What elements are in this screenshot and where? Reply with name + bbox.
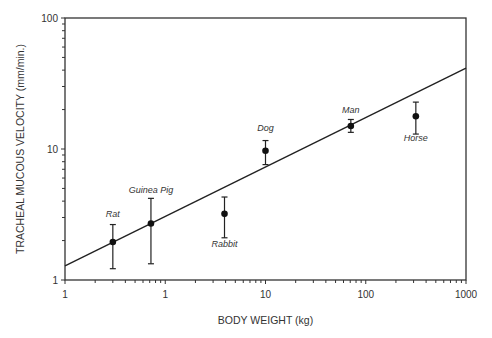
x-tick-label: 1 [62,289,68,300]
x-tick-label: 1000 [455,289,478,300]
point-label: Man [342,105,360,115]
point-label: Guinea Pig [129,185,174,195]
x-tick-label: 1 [162,289,168,300]
data-point [348,123,355,130]
point-label: Dog [257,123,274,133]
data-point [148,220,155,227]
x-tick-label: 10 [260,289,272,300]
x-tick-label: 100 [357,289,374,300]
data-point [110,239,117,246]
y-axis-title: TRACHEAL MUCOUS VELOCITY (mm/min.) [14,44,26,254]
point-label: Rabbit [211,239,238,249]
y-tick-label: 100 [41,13,58,24]
data-point [221,211,228,218]
y-tick-label: 1 [52,275,58,286]
data-point [262,147,269,154]
scatter-chart: 11101001000110100BODY WEIGHT (kg)TRACHEA… [0,0,492,338]
regression-line [65,68,466,266]
point-label: Horse [404,133,428,143]
point-label: Rat [106,209,121,219]
x-axis-title: BODY WEIGHT (kg) [218,314,313,326]
data-point [413,113,420,120]
y-tick-label: 10 [47,144,59,155]
